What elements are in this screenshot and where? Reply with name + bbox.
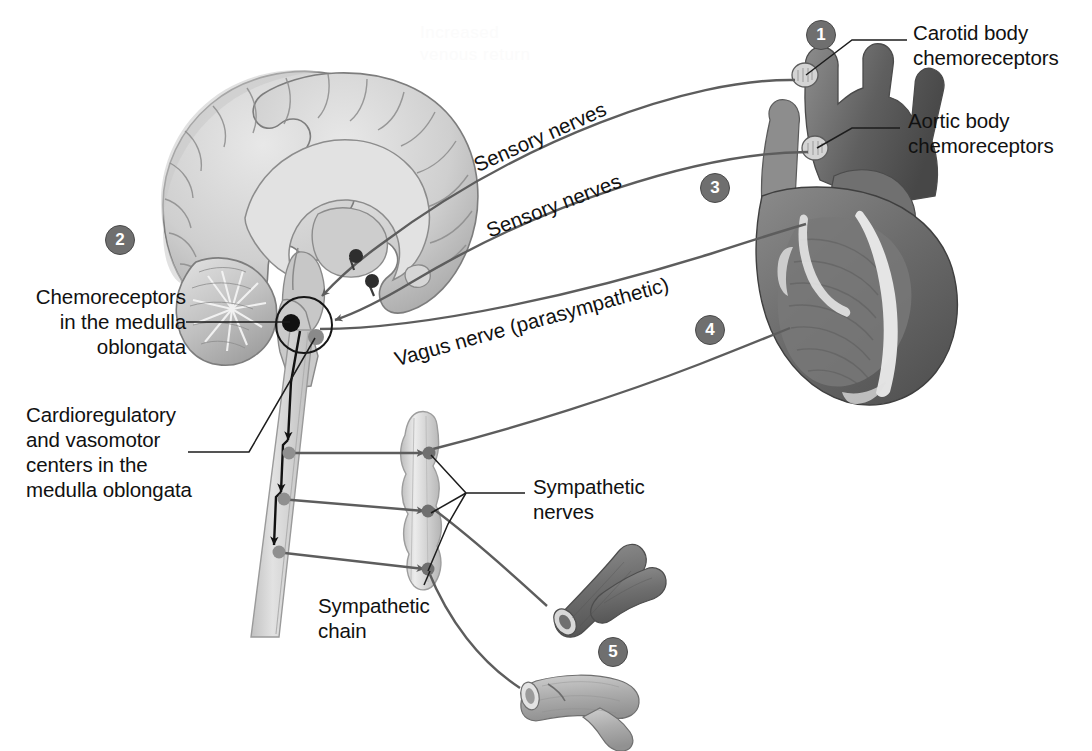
label-carotid-body-chemoreceptors: Carotid body chemoreceptors: [913, 20, 1059, 70]
label-sympathetic-chain: Sympathetic chain: [318, 593, 430, 643]
callout-5[interactable]: 5: [598, 637, 628, 667]
cardioregulatory-dot: [308, 329, 324, 345]
ramus-3: [276, 552, 424, 569]
figure-canvas: Increased venous return Carotid body che…: [0, 0, 1092, 751]
callout-4[interactable]: 4: [695, 315, 725, 345]
sympathetic-chain-illustration: [401, 412, 442, 590]
callout-1[interactable]: 1: [806, 20, 836, 50]
artery-illustration: [549, 544, 666, 639]
chemoreceptor-dot: [282, 314, 300, 332]
label-aortic-body-chemoreceptors: Aortic body chemoreceptors: [908, 108, 1054, 158]
carotid-body-nodule: [792, 63, 818, 87]
vein-illustration: [518, 675, 639, 751]
ghost-text: Increased venous return: [420, 22, 530, 66]
label-sympathetic-nerves: Sympathetic nerves: [533, 474, 645, 524]
aortic-body-nodule: [802, 136, 828, 160]
sympathetic-nerve-to-vein: [428, 570, 520, 688]
callout-2[interactable]: 2: [105, 225, 135, 255]
label-medulla-chemoreceptors: Chemoreceptors in the medulla oblongata: [26, 284, 186, 359]
heart-illustration: [756, 44, 957, 405]
label-cardioregulatory-centers: Cardioregulatory and vasomotor centers i…: [26, 402, 206, 502]
callout-3[interactable]: 3: [700, 173, 730, 203]
